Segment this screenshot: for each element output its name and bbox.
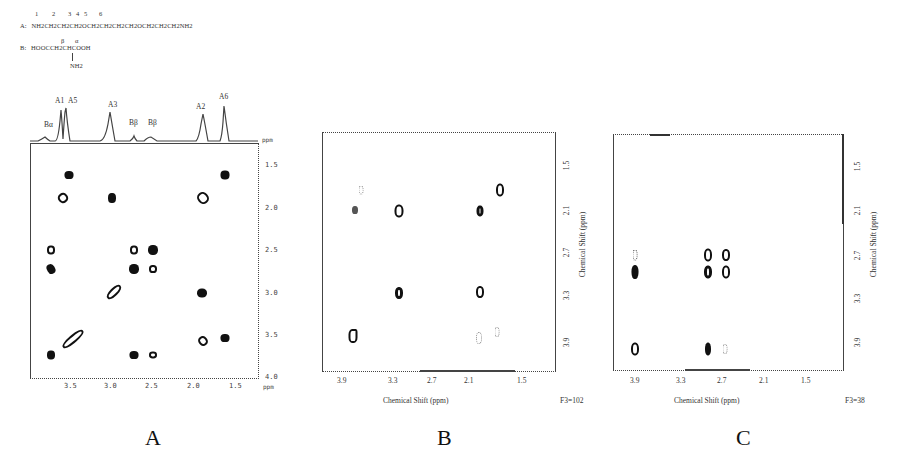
x-tick-label: 3.0 (104, 382, 117, 390)
cross-peak (495, 327, 500, 337)
cross-peak (65, 171, 74, 179)
x-tick-label: 2.1 (464, 376, 473, 385)
x-tick-label: 3.5 (64, 382, 77, 390)
projection-peak-label: Bα (44, 120, 53, 129)
panel-c-right-highlight (842, 134, 844, 224)
cross-peak (477, 206, 484, 217)
cross-peak (148, 245, 158, 255)
x-tick-label: 3.3 (676, 376, 685, 385)
cross-peak (149, 265, 157, 273)
cross-peak (130, 351, 139, 359)
projection-axis-unit: ppm (262, 136, 273, 143)
cross-peak (704, 266, 712, 279)
panel-label-c: C (736, 425, 751, 451)
y-tick-label: 3.5 (265, 331, 278, 339)
panel-c-axis-highlight-bottom (685, 369, 750, 371)
panel-c-axis-highlight-top (650, 134, 670, 136)
x-tick-label: 3.9 (630, 376, 639, 385)
projection-peak-label: A3 (108, 100, 117, 109)
cross-peak (496, 184, 504, 197)
y-tick-label: 2.1 (853, 206, 862, 215)
y-tick-label: 3.9 (853, 338, 862, 347)
cross-peak (221, 334, 230, 342)
cross-peak (631, 343, 639, 356)
cross-peak (705, 343, 711, 356)
x-tick-label: 3.9 (337, 376, 346, 385)
cross-peak (149, 352, 157, 359)
y-tick-label: 4.0 (265, 373, 278, 381)
cross-peak (47, 246, 55, 255)
x-tick-label: 2.7 (427, 376, 436, 385)
cross-peak (722, 266, 730, 279)
slice-annotation: F3=102 (560, 396, 583, 405)
x-tick-label: 1.5 (517, 376, 526, 385)
projection-peak-label: A2 (196, 102, 205, 111)
cross-peak (130, 246, 138, 255)
projection-peak-label: Bβ (129, 118, 138, 127)
x-tick-label: 2.7 (717, 376, 726, 385)
y-tick-label: 1.5 (562, 161, 571, 170)
y-tick-label: 1.5 (853, 162, 862, 171)
x-tick-label: 3.3 (388, 376, 397, 385)
y-axis-label: Chemical Shift (ppm) (578, 205, 587, 285)
x-axis-label: Chemical Shift (ppm) (383, 396, 448, 405)
x-tick-label: 2.5 (145, 382, 158, 390)
y-tick-label: 1.5 (265, 161, 278, 169)
y-tick-label: 2.0 (265, 204, 278, 212)
slice-annotation: F3=38 (845, 396, 865, 405)
x-axis-label: ppm (263, 383, 274, 390)
y-tick-label: 3.0 (265, 289, 278, 297)
cross-peak (704, 249, 712, 262)
x-tick-label: 2.0 (187, 382, 200, 390)
x-axis-label: Chemical Shift (ppm) (674, 396, 739, 405)
y-axis-label: Chemical Shift (ppm) (869, 205, 878, 285)
projection-peak-label: A6 (219, 92, 228, 101)
cross-peak (476, 286, 484, 298)
panel-label-b: B (437, 425, 452, 451)
cross-peak (722, 249, 730, 261)
y-tick-label: 3.3 (853, 294, 862, 303)
panel-b-axis-highlight (420, 370, 515, 372)
cross-peak (349, 329, 358, 343)
cross-peak (129, 264, 139, 274)
y-tick-label: 2.7 (562, 248, 571, 257)
y-tick-label: 3.9 (562, 338, 571, 347)
projection-peak-label: A5 (68, 96, 77, 105)
cross-peak (395, 287, 403, 299)
cross-peak (476, 332, 482, 344)
x-tick-label: 1.5 (229, 382, 242, 390)
cross-peak (352, 206, 358, 214)
cross-peak (395, 205, 404, 218)
x-tick-label: 2.1 (759, 376, 768, 385)
cross-peak (632, 265, 639, 279)
cross-peak (633, 250, 638, 261)
y-tick-label: 2.7 (853, 251, 862, 260)
y-tick-label: 2.5 (265, 246, 278, 254)
panel-label-a: A (145, 425, 161, 451)
y-tick-label: 2.1 (562, 206, 571, 215)
x-tick-label: 1.5 (801, 376, 810, 385)
y-tick-label: 3.3 (562, 291, 571, 300)
cross-peak (359, 186, 364, 195)
cross-peak (108, 193, 116, 203)
cross-peak (723, 344, 728, 354)
projection-peak-label: A1 (55, 96, 64, 105)
cross-peak (47, 351, 55, 360)
projection-peak-label: Bβ (148, 118, 157, 127)
cross-peak (221, 171, 230, 180)
cross-peak (197, 289, 207, 298)
